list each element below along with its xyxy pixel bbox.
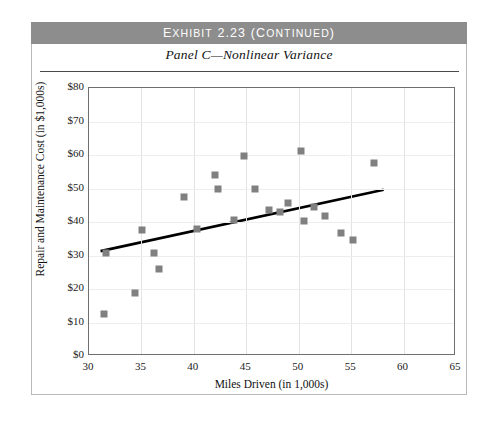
panel-title: Panel C—Nonlinear Variance [31, 47, 467, 63]
exhibit-banner: EXHIBIT 2.23 (CONTINUED) [31, 22, 467, 44]
exhibit-frame [31, 22, 467, 395]
panel-title-rule [40, 71, 459, 72]
exhibit-banner-title: EXHIBIT 2.23 (CONTINUED) [163, 26, 335, 40]
